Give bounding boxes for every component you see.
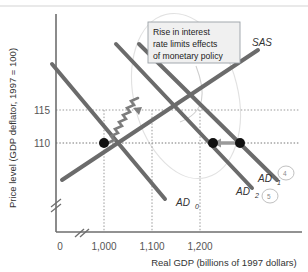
- y-tick-label-115: 115: [34, 105, 50, 116]
- callout-line-3: of monetary policy: [153, 51, 223, 61]
- callout-line-1: Rise in interest: [153, 27, 210, 37]
- chart-canvas: Rise in interest rate limits effects of …: [0, 0, 308, 272]
- x-axis-break-1: [75, 229, 84, 237]
- as-ad-chart-figure: Rise in interest rate limits effects of …: [0, 0, 308, 272]
- marker-initial-equilibrium: [99, 138, 109, 148]
- curve-label-sas: SAS: [252, 37, 272, 48]
- x-tick-label-1200: 1,200: [187, 241, 212, 252]
- interest-rate-callout: Rise in interest rate limits effects of …: [148, 22, 240, 63]
- curve-label-ad0: AD: [175, 197, 190, 208]
- curve-ad0: [52, 64, 165, 199]
- x-tick-label-0: 0: [57, 241, 63, 252]
- circled-annotation-2-text: 5: [267, 193, 271, 200]
- curve-label-ad1-sub: 1: [277, 179, 281, 186]
- curve-label-ad0-sub: 0: [195, 203, 199, 210]
- x-axis-title: Real GDP (billions of 1997 dollars): [151, 257, 297, 268]
- guide-lines: [56, 110, 300, 232]
- y-tick-label-110: 110: [34, 138, 50, 149]
- marker-new-equilibrium: [208, 138, 218, 148]
- x-axis-break-2: [80, 229, 89, 237]
- x-tick-label-1100: 1,100: [139, 241, 164, 252]
- curve-ad1: [139, 44, 277, 180]
- marker-intermediate-equilibrium: [235, 138, 245, 148]
- circled-annotation-1: 4: [278, 166, 294, 180]
- x-tick-label-1000: 1,000: [91, 241, 116, 252]
- callout-line-2: rate limits effects: [153, 39, 217, 49]
- curve-label-ad1: AD: [257, 173, 272, 184]
- curve-label-ad2: AD: [235, 186, 250, 197]
- circled-annotation-1-text: 4: [283, 170, 287, 177]
- y-axis-title: Price level (GDP deflator, 1997 = 100): [7, 48, 18, 208]
- circled-annotation-2: 5: [262, 189, 278, 203]
- curve-label-ad2-sub: 2: [254, 192, 259, 199]
